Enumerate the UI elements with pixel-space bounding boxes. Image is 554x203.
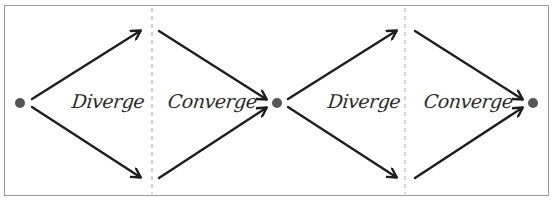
arrow-down-icon <box>159 31 266 99</box>
arrow-up-icon <box>32 31 140 99</box>
middle-node-dot <box>272 98 282 108</box>
phase-label-diverge-1: Diverge <box>71 90 146 112</box>
start-node-dot <box>15 98 25 108</box>
arrow-down-icon <box>288 107 396 177</box>
phase-label-diverge-2: Diverge <box>327 90 402 112</box>
arrow-down-icon <box>32 107 140 177</box>
arrow-up-icon <box>159 108 266 178</box>
arrow-up-icon <box>415 108 522 178</box>
end-node-dot <box>528 98 538 108</box>
phase-label-converge-1: Converge <box>167 90 258 112</box>
arrow-down-icon <box>415 31 522 99</box>
arrow-up-icon <box>288 31 396 99</box>
phase-label-converge-2: Converge <box>423 90 514 112</box>
